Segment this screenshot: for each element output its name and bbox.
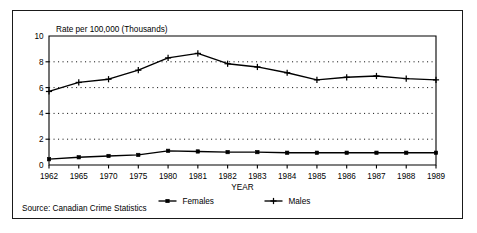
legend-label: Females [183, 197, 214, 206]
data-point-marker [137, 153, 140, 156]
data-point-marker [196, 150, 199, 153]
axes-group [49, 36, 436, 165]
x-axis-tick-label: 1975 [129, 172, 148, 181]
x-axis-tick-label: 1965 [70, 172, 89, 181]
y-axis-tick-label: 10 [34, 32, 44, 41]
data-point-marker [47, 157, 50, 160]
data-point-marker [345, 151, 348, 154]
data-point-marker [256, 150, 259, 153]
x-axis-tick-label: 1981 [189, 172, 208, 181]
x-axis-tick-label: 1980 [159, 172, 178, 181]
y-axis-tick-label: 8 [39, 58, 44, 67]
data-point-marker [77, 156, 80, 159]
tick-label-group: 0246810196219651970197519801981198219831… [34, 25, 445, 193]
y-axis-tick-label: 2 [39, 135, 44, 144]
y-axis-tick-label: 4 [39, 109, 44, 118]
data-point-marker [405, 151, 408, 154]
x-axis-tick-label: 1989 [427, 172, 446, 181]
data-point-marker [226, 150, 229, 153]
gridlines-group [49, 62, 436, 139]
source-note: Source: Canadian Crime Statistics [22, 204, 147, 213]
y-axis-tick-label: 0 [39, 161, 44, 170]
x-axis-tick-label: 1982 [219, 172, 238, 181]
data-point-marker [434, 151, 437, 154]
data-point-marker [107, 154, 110, 157]
x-axis-tick-label: 1987 [367, 172, 386, 181]
chart-plot-container: 0246810196219651970197519801981198219831… [13, 11, 464, 220]
x-axis-tick-label: 1962 [40, 172, 59, 181]
series-group [46, 50, 439, 161]
x-axis-tick-label: 1988 [397, 172, 416, 181]
chart-figure-frame: 0246810196219651970197519801981198219831… [12, 10, 463, 219]
series-females [47, 149, 437, 161]
data-point-marker [285, 151, 288, 154]
x-axis-title: YEAR [231, 183, 253, 192]
x-axis-tick-label: 1985 [308, 172, 327, 181]
x-axis-tick-label: 1986 [338, 172, 357, 181]
x-axis-tick-label: 1984 [278, 172, 297, 181]
x-axis-tick-label: 1983 [248, 172, 267, 181]
x-axis-tick-label: 1970 [99, 172, 118, 181]
y-axis-title: Rate per 100,000 (Thousands) [56, 25, 168, 34]
data-point-marker [375, 151, 378, 154]
legend-label: Males [289, 197, 311, 206]
legend-item-females[interactable]: Females [159, 197, 214, 206]
legend-group: FemalesMales [159, 197, 311, 206]
data-point-marker [315, 151, 318, 154]
line-chart-svg: 0246810196219651970197519801981198219831… [13, 11, 464, 220]
data-point-marker [166, 199, 169, 202]
data-point-marker [166, 149, 169, 152]
legend-item-males[interactable]: Males [265, 197, 311, 206]
y-axis-tick-label: 6 [39, 84, 44, 93]
